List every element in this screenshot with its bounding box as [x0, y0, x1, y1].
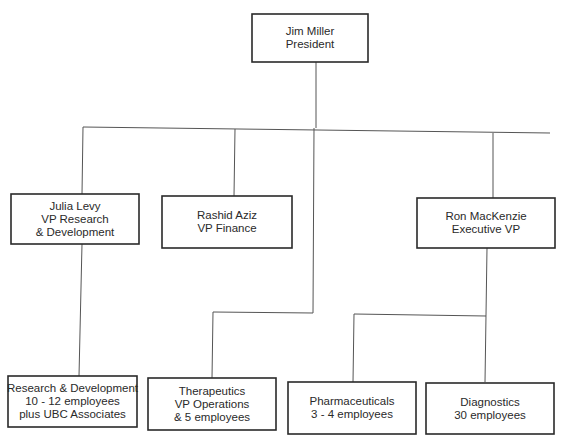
node-label-line: & 5 employees [174, 411, 250, 423]
node-label-line: Diagnostics [460, 396, 520, 408]
connector-to-therapeutics [212, 128, 314, 378]
connector-to-vp-finance [234, 129, 235, 196]
node-label-line: Jim Miller [286, 25, 335, 37]
node-label-line: VP Operations [175, 398, 250, 410]
node-pharmaceuticals: Pharmaceuticals3 - 4 employees [288, 382, 416, 434]
node-label-line: Ron MacKenzie [445, 210, 526, 222]
node-label-line: VP Finance [197, 222, 256, 234]
connector-to-vp-research [82, 127, 83, 194]
connector-to-pharmaceuticals [353, 314, 486, 382]
node-research-dev: Research & Development10 - 12 employeesp… [7, 376, 139, 427]
node-label-line: President [286, 38, 335, 50]
node-label-line: 10 - 12 employees [25, 395, 120, 407]
node-label-line: Research & Development [7, 382, 139, 394]
node-label-line: VP Research [41, 213, 109, 225]
node-label-line: plus UBC Associates [19, 408, 126, 420]
connector-to-research-dev [79, 244, 82, 376]
node-label-line: Therapeutics [179, 385, 246, 397]
node-label-line: Pharmaceuticals [309, 395, 394, 407]
nodes: Jim MillerPresidentJulia LevyVP Research… [7, 14, 555, 434]
node-label-line: Rashid Aziz [197, 209, 257, 221]
node-therapeutics: TherapeuticsVP Operations& 5 employees [148, 378, 276, 430]
connector-exec-vp-trunk [485, 248, 487, 382]
node-diagnostics: Diagnostics30 employees [426, 383, 554, 434]
node-vp-finance: Rashid AzizVP Finance [162, 196, 292, 248]
node-exec-vp: Ron MacKenzieExecutive VP [417, 198, 555, 248]
node-label-line: 3 - 4 employees [311, 408, 393, 420]
node-vp-research: Julia LevyVP Research& Development [11, 194, 139, 244]
node-label-line: & Development [36, 226, 115, 238]
org-chart: Jim MillerPresidentJulia LevyVP Research… [0, 0, 566, 440]
node-label-line: Julia Levy [49, 200, 100, 212]
node-label-line: 30 employees [454, 409, 526, 421]
node-label-line: Executive VP [452, 223, 521, 235]
node-president: Jim MillerPresident [252, 14, 368, 62]
